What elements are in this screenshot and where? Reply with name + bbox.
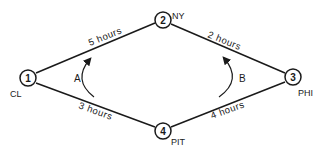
- node-city: PHI: [298, 88, 313, 98]
- path-b-arrow-icon: [219, 58, 232, 97]
- path-a-label: A: [74, 73, 81, 84]
- node-pit: 4 PIT: [155, 123, 186, 147]
- node-ny: 2 NY: [155, 11, 185, 28]
- svg-text:3 hours: 3 hours: [77, 100, 114, 122]
- node-number: 3: [290, 72, 296, 83]
- node-city: PIT: [171, 137, 186, 147]
- node-city: NY: [172, 11, 185, 21]
- svg-text:2 hours: 2 hours: [206, 29, 243, 52]
- edge-label-cl-pit: 3 hours: [77, 100, 114, 122]
- edge-cl-ny: [36, 23, 155, 73]
- network-diagram: 5 hours 2 hours 3 hours 4 hours A B 1 CL…: [0, 0, 320, 150]
- node-city: CL: [10, 89, 22, 99]
- svg-text:4 hours: 4 hours: [209, 99, 246, 121]
- node-phi: 3 PHI: [285, 69, 313, 98]
- node-number: 4: [160, 126, 166, 137]
- path-b-label: B: [239, 73, 246, 84]
- edge-label-ny-phi: 2 hours: [206, 29, 243, 52]
- node-cl: 1 CL: [10, 70, 36, 99]
- node-number: 2: [160, 15, 166, 26]
- edge-label-pit-phi: 4 hours: [209, 99, 246, 121]
- path-a-arrow-icon: [82, 59, 94, 97]
- node-number: 1: [25, 73, 31, 84]
- edge-ny-phi: [171, 24, 285, 73]
